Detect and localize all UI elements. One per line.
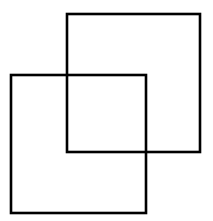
overlapping-squares-figure (0, 0, 213, 221)
canvas-background (0, 0, 213, 221)
figure-canvas (0, 0, 213, 221)
